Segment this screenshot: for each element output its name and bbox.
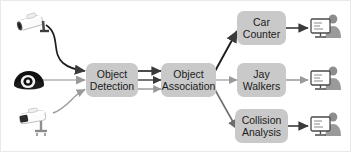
stage-object-detection[interactable]: Object Detection bbox=[86, 63, 138, 97]
stage-object-detection-line-1: Object bbox=[97, 68, 127, 81]
stage-object-association-line-1: Object bbox=[173, 68, 203, 81]
output-collision-analysis-line-2: Analysis bbox=[242, 126, 281, 139]
stage-object-association[interactable]: Object Association bbox=[161, 63, 216, 97]
bullet-camera-icon bbox=[15, 101, 63, 139]
output-collision-analysis-line-1: Collision bbox=[242, 114, 282, 127]
stage-object-association-line-2: Association bbox=[162, 80, 216, 93]
operator-monitor-icon bbox=[308, 62, 346, 96]
link-association-to-collision-analysis bbox=[214, 88, 237, 129]
output-jay-walkers[interactable]: Jay Walkers bbox=[237, 63, 286, 97]
output-car-counter-line-1: Car bbox=[253, 16, 270, 29]
operator-monitor-icon bbox=[308, 108, 346, 142]
dome-camera-icon bbox=[11, 63, 47, 95]
output-collision-analysis[interactable]: Collision Analysis bbox=[235, 109, 288, 143]
link-association-to-car-counter bbox=[214, 31, 237, 73]
bullet-camera-icon bbox=[13, 5, 61, 41]
output-car-counter-line-2: Counter bbox=[243, 28, 280, 41]
diagram-canvas: Object Detection Object Association Car … bbox=[0, 0, 351, 152]
stage-object-detection-line-2: Detection bbox=[90, 80, 134, 93]
operator-monitor-icon bbox=[308, 10, 346, 44]
output-jay-walkers-line-2: Walkers bbox=[243, 80, 281, 93]
output-car-counter[interactable]: Car Counter bbox=[237, 11, 286, 45]
output-jay-walkers-line-1: Jay bbox=[253, 68, 269, 81]
